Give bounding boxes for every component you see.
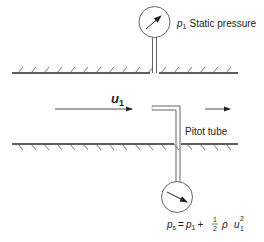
formula-u-subscript: 1 bbox=[240, 225, 244, 232]
bottom-wall bbox=[12, 144, 238, 150]
static-text: Static pressure bbox=[189, 18, 256, 29]
stagnation-pressure-formula: ps=p1+ 1 2 ρ u 1 2 bbox=[166, 215, 244, 232]
top-wall-hatch bbox=[96, 67, 101, 73]
formula-left: ps=p1+ bbox=[166, 219, 203, 231]
static-pressure-label: p1Static pressure bbox=[176, 18, 257, 30]
bottom-wall-hatch bbox=[57, 144, 62, 150]
bottom-wall-hatch bbox=[83, 144, 88, 150]
bottom-wall-hatch bbox=[226, 144, 231, 150]
top-wall-hatch bbox=[57, 67, 62, 73]
velocity-symbol: u bbox=[111, 91, 119, 106]
top-wall bbox=[12, 67, 238, 73]
bottom-wall-hatch bbox=[187, 144, 192, 150]
top-wall-hatch bbox=[83, 67, 88, 73]
formula-equals: = bbox=[178, 219, 184, 230]
top-wall-hatch bbox=[161, 67, 166, 73]
bottom-wall-hatch bbox=[109, 144, 114, 150]
top-wall-hatch bbox=[122, 67, 127, 73]
static-subscript: 1 bbox=[183, 23, 187, 30]
top-wall-hatch bbox=[174, 67, 179, 73]
bottom-wall-hatch bbox=[161, 144, 166, 150]
top-wall-hatch bbox=[44, 67, 49, 73]
pitot-tube-inner bbox=[152, 110, 176, 182]
top-wall-hatch bbox=[31, 67, 36, 73]
velocity-subscript: 1 bbox=[119, 98, 124, 108]
bottom-wall-hatch bbox=[213, 144, 218, 150]
top-wall-hatching bbox=[18, 67, 231, 73]
bottom-wall-hatch bbox=[148, 144, 153, 150]
bottom-wall-hatch bbox=[18, 144, 23, 150]
bottom-wall-hatch bbox=[70, 144, 75, 150]
formula-u-superscript: 2 bbox=[240, 215, 244, 222]
top-wall-hatch bbox=[226, 67, 231, 73]
top-wall-hatch bbox=[200, 67, 205, 73]
top-wall-hatch bbox=[135, 67, 140, 73]
top-wall-hatch bbox=[18, 67, 23, 73]
top-wall-hatch bbox=[70, 67, 75, 73]
bottom-wall-hatch bbox=[135, 144, 140, 150]
bottom-wall-hatch bbox=[44, 144, 49, 150]
bottom-wall-hatching bbox=[18, 144, 231, 150]
top-wall-hatch bbox=[187, 67, 192, 73]
bottom-wall-hatch bbox=[31, 144, 36, 150]
formula-p1-subscript: 1 bbox=[191, 224, 195, 231]
top-wall-hatch bbox=[109, 67, 114, 73]
pitot-diagram: p1Static pressure u1 Pitot tube ps=p1+ 1… bbox=[0, 0, 264, 242]
pitot-tube bbox=[152, 106, 193, 213]
bottom-wall-hatch bbox=[200, 144, 205, 150]
formula-rho: ρ bbox=[221, 219, 228, 230]
bottom-wall-hatch bbox=[96, 144, 101, 150]
formula-plus: + bbox=[197, 219, 203, 230]
formula-frac-numerator: 1 bbox=[213, 216, 217, 223]
formula-ps-subscript: s bbox=[173, 224, 177, 231]
velocity-label: u1 bbox=[111, 91, 124, 108]
pitot-tube-label: Pitot tube bbox=[185, 126, 228, 137]
top-wall-hatch bbox=[213, 67, 218, 73]
bottom-wall-hatch bbox=[174, 144, 179, 150]
static-pressure-tap bbox=[139, 7, 170, 74]
bottom-wall-hatch bbox=[122, 144, 127, 150]
formula-frac-denominator: 2 bbox=[213, 225, 217, 232]
